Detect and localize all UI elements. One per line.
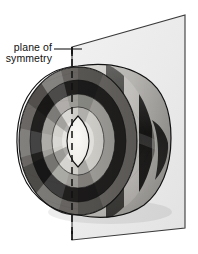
figure-container: plane of symmetry [0, 0, 198, 254]
symmetry-plane-illustration: plane of symmetry [0, 0, 198, 254]
label-symmetry: symmetry [6, 52, 53, 64]
